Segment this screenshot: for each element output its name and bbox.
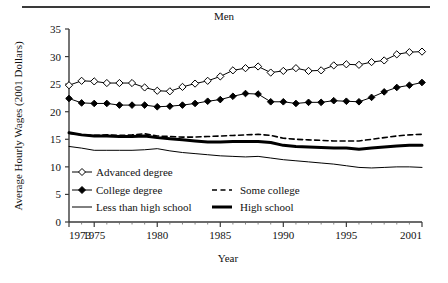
series-marker	[66, 95, 73, 102]
x-axis-title: Year	[218, 252, 239, 264]
series-marker	[393, 84, 400, 91]
legend-label: High school	[240, 201, 293, 213]
series-marker	[154, 103, 161, 110]
series-marker	[381, 89, 388, 96]
series-marker	[293, 100, 300, 107]
series-marker	[167, 103, 174, 110]
x-tick-label: 1975	[83, 229, 106, 241]
series-marker	[280, 67, 287, 74]
y-tick-label: 5	[56, 188, 62, 200]
series-marker	[343, 61, 350, 68]
x-tick-label: 1985	[209, 229, 232, 241]
legend-filled-diamond-icon	[79, 187, 86, 194]
series-marker	[242, 90, 249, 97]
y-tick-label: 0	[56, 216, 62, 228]
series-marker	[91, 100, 98, 107]
y-tick-label: 35	[50, 23, 62, 35]
series-marker	[116, 102, 123, 109]
series-marker	[356, 98, 363, 105]
legend-label: Less than high school	[96, 201, 192, 213]
series-marker	[179, 102, 186, 109]
series-line	[69, 133, 422, 150]
series-marker	[343, 98, 350, 105]
series-marker	[229, 67, 236, 74]
series-marker	[267, 98, 274, 105]
series-layer	[65, 48, 425, 168]
y-tick-label: 25	[50, 78, 62, 90]
y-tick-label: 15	[50, 133, 62, 145]
series-marker	[116, 79, 123, 86]
series-marker	[292, 65, 299, 72]
line-chart: Men Average Hourly Wages (2001 Dollars) …	[0, 0, 448, 283]
series-marker	[141, 102, 148, 109]
series-marker	[393, 51, 400, 58]
series-marker	[330, 62, 337, 69]
x-tick-label: 1990	[272, 229, 295, 241]
series-marker	[406, 82, 413, 89]
legend-label: Advanced degree	[96, 166, 173, 178]
series-marker	[230, 93, 237, 100]
series-marker	[192, 100, 199, 107]
header-rule	[22, 6, 430, 8]
legend-label: College degree	[96, 184, 162, 196]
series-marker	[406, 49, 413, 56]
series-marker	[280, 98, 287, 105]
chart-figure: Men Average Hourly Wages (2001 Dollars) …	[0, 0, 448, 283]
series-marker	[381, 57, 388, 64]
series-marker	[204, 98, 211, 105]
series-marker	[368, 58, 375, 65]
series-marker	[204, 77, 211, 84]
series-marker	[330, 97, 337, 104]
series-marker	[318, 67, 325, 74]
chart-legend: Advanced degreeCollege degreeSome colleg…	[72, 166, 300, 213]
series-marker	[305, 67, 312, 74]
series-marker	[217, 96, 224, 103]
series-marker	[418, 48, 425, 55]
series-marker	[141, 84, 148, 91]
series-marker	[154, 87, 161, 94]
x-tick-label: 1980	[146, 229, 169, 241]
series-marker	[129, 102, 136, 109]
series-marker	[305, 99, 312, 106]
series-marker	[267, 69, 274, 76]
series-marker	[179, 83, 186, 90]
series-marker	[104, 100, 111, 107]
series-marker	[91, 78, 98, 85]
x-tick-label: 2001	[400, 229, 422, 241]
series-marker	[255, 91, 262, 98]
series-marker	[255, 63, 262, 70]
chart-title: Men	[214, 10, 235, 22]
series-marker	[103, 79, 110, 86]
series-marker	[166, 88, 173, 95]
series-marker	[355, 61, 362, 68]
series-marker	[318, 99, 325, 106]
legend-open-diamond-icon	[79, 169, 86, 176]
y-axis-ticks: 05101520253035	[50, 23, 69, 228]
series-marker	[78, 77, 85, 84]
legend-label: Some college	[240, 184, 300, 196]
series-marker	[242, 65, 249, 72]
series-marker	[217, 73, 224, 80]
y-tick-label: 10	[50, 161, 62, 173]
series-marker	[191, 80, 198, 87]
series-marker	[78, 100, 85, 107]
y-tick-label: 20	[50, 106, 62, 118]
series-marker	[368, 94, 375, 101]
y-axis-title: Average Hourly Wages (2001 Dollars)	[12, 41, 25, 210]
x-axis-ticks: 1973197519801985199019952001	[69, 222, 422, 241]
series-marker	[65, 82, 72, 89]
series-marker	[128, 79, 135, 86]
y-tick-label: 30	[50, 51, 62, 63]
series-marker	[419, 79, 426, 86]
x-tick-label: 1995	[335, 229, 358, 241]
